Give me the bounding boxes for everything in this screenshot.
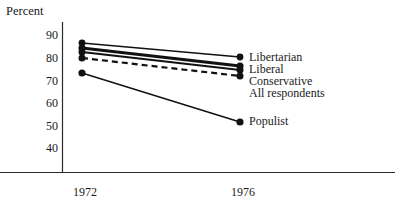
x-tick-label-1972: 1972: [73, 186, 97, 198]
series-label-all-respondents: All respondents: [249, 87, 325, 100]
plot-area: [0, 0, 395, 207]
series-line-populist: [78, 69, 243, 125]
slope-chart: Percent 90 80 70 60 50 40: [0, 0, 395, 207]
series-line-liberal: [78, 44, 243, 69]
series-label-populist: Populist: [249, 115, 288, 128]
x-tick-label-1976: 1976: [231, 186, 255, 198]
